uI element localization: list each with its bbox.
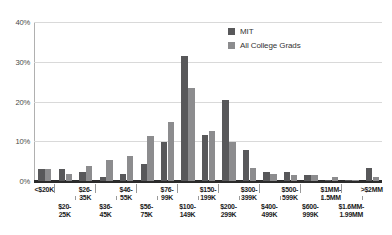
x-tick-label->$2MM: >$2MM bbox=[347, 186, 392, 194]
x-axis-separator-tick bbox=[259, 184, 260, 193]
x-tick-label-line1: $1.6MM- bbox=[326, 203, 376, 211]
x-tick-label-line1: >$2MM bbox=[347, 186, 392, 194]
x-tick-label-line2: 1.5MM bbox=[306, 194, 356, 202]
x-axis-separator-tick bbox=[300, 184, 301, 193]
x-tick-label-line2: 1.99MM bbox=[326, 211, 376, 219]
x-axis-labels: <$20K$20-25K$26-35K$36-45K$46-55K$56-75K… bbox=[0, 0, 392, 235]
x-axis-separator-tick bbox=[218, 184, 219, 193]
income-distribution-bar-chart: 0%10%20%30%40% MIT All College Grads <$2… bbox=[0, 0, 392, 235]
x-axis-separator-tick bbox=[95, 184, 96, 193]
x-axis-separator-tick bbox=[177, 184, 178, 193]
x-tick-label-$1.6MM-1.99MM: $1.6MM-1.99MM bbox=[326, 203, 376, 220]
x-axis-separator-tick bbox=[362, 196, 363, 200]
x-axis-separator-tick bbox=[341, 184, 342, 193]
x-axis-separator-tick bbox=[136, 184, 137, 193]
x-axis-separator-tick bbox=[54, 184, 55, 193]
